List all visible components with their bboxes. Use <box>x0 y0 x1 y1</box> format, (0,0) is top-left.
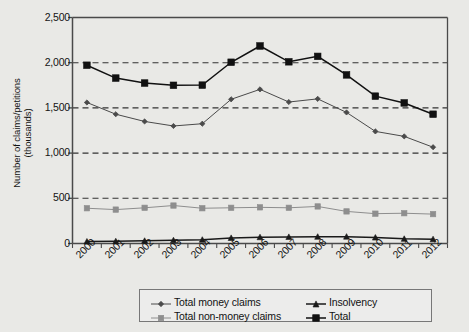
data-point-marker <box>286 99 291 104</box>
data-point-marker <box>286 58 293 65</box>
data-point-marker <box>257 87 262 92</box>
data-point-marker <box>315 204 320 209</box>
legend-item-label: Insolvency <box>329 296 377 308</box>
data-point-marker <box>430 211 435 216</box>
data-point-marker <box>430 111 437 118</box>
data-point-marker <box>257 43 264 50</box>
data-point-marker <box>113 207 118 212</box>
data-point-marker <box>171 203 176 208</box>
data-point-marker <box>344 209 349 214</box>
data-point-marker <box>171 123 176 128</box>
data-point-marker <box>373 211 378 216</box>
y-axis-tick-label: 0 <box>64 237 70 249</box>
y-axis-tick-label: 2,500 <box>45 11 70 23</box>
data-point-marker <box>402 134 407 139</box>
data-point-marker <box>84 62 91 69</box>
legend-marker-icon <box>305 310 327 328</box>
chart-legend: Total money claimsTotal non-money claims… <box>139 289 432 322</box>
data-point-marker <box>401 100 408 107</box>
y-axis-tick-label: 1,500 <box>45 101 70 113</box>
chart-figure: Number of claims/petitions (thousands) 0… <box>0 0 469 332</box>
data-point-marker <box>199 82 206 89</box>
data-point-marker <box>200 206 205 211</box>
data-point-marker <box>315 96 320 101</box>
data-point-marker <box>286 205 291 210</box>
data-point-marker <box>142 205 147 210</box>
data-point-marker <box>257 205 262 210</box>
data-point-marker <box>113 112 118 117</box>
y-axis-tick-label: 500 <box>53 191 70 203</box>
data-point-marker <box>84 206 89 211</box>
y-axis-tick-label: 2,000 <box>45 56 70 68</box>
data-point-marker <box>373 129 378 134</box>
y-axis-tick-label: 1,000 <box>45 146 70 158</box>
data-point-marker <box>228 59 235 66</box>
data-point-marker <box>84 100 89 105</box>
legend-item-label: Total non-money claims <box>174 310 281 322</box>
data-point-marker <box>112 75 119 82</box>
data-point-marker <box>402 211 407 216</box>
data-point-marker <box>430 145 435 150</box>
data-point-marker <box>343 72 350 79</box>
data-point-marker <box>344 110 349 115</box>
data-point-marker <box>170 82 177 89</box>
data-point-marker <box>228 205 233 210</box>
legend-item-label: Total <box>329 310 350 322</box>
chart-plot-area <box>0 0 469 332</box>
series-line <box>87 46 433 114</box>
legend-marker-icon <box>150 310 172 328</box>
data-point-marker <box>372 93 379 100</box>
legend-item-label: Total money claims <box>174 296 261 308</box>
data-point-marker <box>314 53 321 60</box>
data-point-marker <box>141 80 148 87</box>
data-point-marker <box>142 119 147 124</box>
